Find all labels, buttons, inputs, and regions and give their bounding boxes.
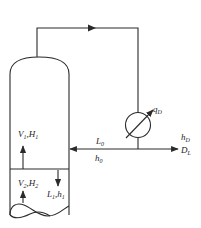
label-l0: L0	[95, 136, 104, 147]
label-dl: DL	[180, 145, 192, 156]
label-h0: h0	[95, 153, 103, 164]
vapor-flow-arrow-icon	[88, 25, 96, 32]
column-break-lower	[10, 212, 50, 218]
vapor-line	[37, 28, 138, 113]
label-hd: hD	[181, 132, 191, 143]
condenser-duty-arrow	[126, 110, 153, 138]
label-v1-h1: V1,H1	[18, 129, 38, 140]
label-qd: qD	[153, 104, 163, 115]
column-break	[10, 204, 69, 216]
label-v2-h2: V2,H2	[18, 178, 38, 189]
distillation-diagram: V1,H1 V2,H2 L1,h1 L0 h0 qD hD DL	[0, 0, 201, 228]
label-l1-h1: L1,h1	[46, 189, 65, 200]
